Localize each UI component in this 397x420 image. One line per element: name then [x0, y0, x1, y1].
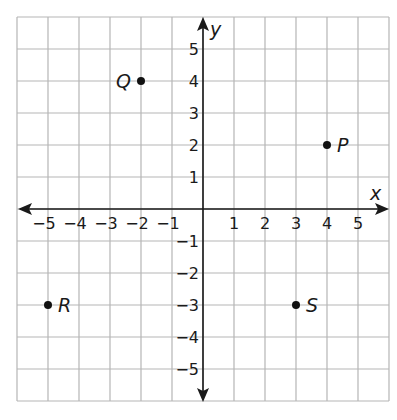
coordinate-plane: x y −5−4−3−2−112345−5−4−3−2−112345 PQRS — [0, 0, 397, 420]
x-axis-label: x — [369, 182, 382, 204]
x-tick-label: 5 — [353, 214, 363, 233]
y-tick-label: −2 — [175, 264, 199, 283]
x-tick-label: −4 — [63, 214, 87, 233]
point-label: Q — [116, 70, 131, 92]
point-marker — [292, 301, 300, 309]
x-tick-label: −3 — [94, 214, 118, 233]
y-tick-label: 2 — [189, 136, 199, 155]
x-tick-label: 1 — [229, 214, 239, 233]
y-tick-label: 3 — [189, 104, 199, 123]
y-axis-label: y — [209, 18, 222, 40]
point-marker — [137, 77, 145, 85]
x-tick-label: 2 — [260, 214, 270, 233]
point-marker — [323, 141, 331, 149]
y-tick-label: 1 — [189, 168, 199, 187]
y-tick-label: −4 — [175, 328, 199, 347]
point-label: P — [337, 134, 349, 156]
x-tick-label: 3 — [291, 214, 301, 233]
y-tick-label: 4 — [189, 72, 199, 91]
y-tick-label: −3 — [175, 296, 199, 315]
x-tick-label: −2 — [125, 214, 149, 233]
point-label: R — [58, 294, 71, 316]
axes: x y — [18, 17, 389, 402]
x-tick-label: −1 — [156, 214, 180, 233]
point-marker — [44, 301, 52, 309]
x-tick-label: −5 — [32, 214, 56, 233]
x-tick-label: 4 — [322, 214, 332, 233]
y-tick-label: −1 — [175, 232, 199, 251]
y-tick-label: −5 — [175, 360, 199, 379]
point-label: S — [306, 294, 318, 316]
y-tick-label: 5 — [189, 40, 199, 59]
